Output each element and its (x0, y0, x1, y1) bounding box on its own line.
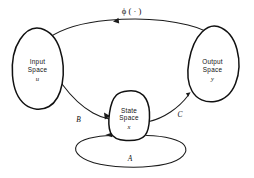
c-map-label: C (178, 110, 183, 119)
phi-map-path (49, 19, 214, 38)
state-space-line1: State (121, 107, 137, 114)
c-map-arrowhead (186, 92, 191, 97)
state-space-line2: Space (119, 114, 139, 122)
output-space-line2: Space (203, 66, 223, 74)
phi-map-arrowhead (113, 18, 119, 24)
c-map-path (149, 95, 189, 122)
input-space-line1: Input (30, 58, 45, 66)
diagram-svg: Input Space u State Space x Output Space… (0, 0, 254, 178)
input-space-line2: Space (28, 66, 48, 74)
node-input-space[interactable]: Input Space u (12, 28, 63, 109)
edge-phi-map (49, 18, 214, 38)
phi-map-label: ϕ ( · ) (122, 6, 142, 16)
node-output-space[interactable]: Output Space y (188, 26, 239, 102)
diagram-canvas: Input Space u State Space x Output Space… (0, 0, 254, 178)
output-space-symbol: y (210, 75, 214, 82)
edge-c-map (149, 92, 191, 121)
node-state-space[interactable]: State Space x (109, 91, 150, 141)
state-space-symbol: x (127, 123, 131, 130)
b-map-path (62, 84, 109, 119)
edge-b-map (62, 84, 110, 120)
a-map-label: A (127, 154, 133, 163)
output-space-line1: Output (202, 58, 223, 66)
b-map-label: B (76, 115, 81, 124)
